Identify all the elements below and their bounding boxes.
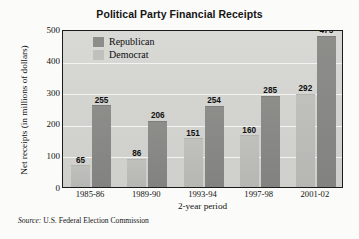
legend-label-democrat: Democrat	[109, 50, 148, 60]
y-tick-label: 0	[36, 184, 60, 193]
bar-value-label: 255	[95, 97, 109, 105]
bar-republican-1997-98: 285	[261, 96, 280, 187]
legend-item-republican: Republican	[93, 36, 155, 48]
y-tick-label: 100	[36, 152, 60, 161]
y-tick-label: 300	[36, 89, 60, 98]
y-tick-label: 200	[36, 120, 60, 129]
bar-value-label: 285	[263, 87, 277, 95]
bar-democrat-1993-94: 151	[184, 138, 203, 187]
source-note: Source: U.S. Federal Election Commission	[18, 216, 149, 225]
bar-value-label: 254	[207, 97, 221, 105]
bar-value-label: 151	[186, 130, 200, 138]
bar-democrat-1989-90: 86	[127, 159, 146, 187]
bar-democrat-1985-86: 65	[71, 165, 90, 187]
y-tick-label: 400	[36, 57, 60, 66]
bar-value-label: 475	[320, 30, 334, 35]
y-axis-tick-labels: 5004003002001000	[30, 0, 60, 239]
y-axis-title: Net receipts (in millions of dollars)	[19, 30, 29, 190]
chart-legend: Republican Democrat	[93, 36, 155, 61]
bar-value-label: 160	[242, 127, 256, 135]
x-tick-label: 1985-86	[76, 189, 105, 199]
x-tick-label: 1997-98	[244, 189, 273, 199]
x-tick-label: 1989-90	[132, 189, 161, 199]
legend-item-democrat: Democrat	[93, 49, 155, 61]
x-axis-title: 2-year period	[62, 201, 343, 211]
legend-swatch-democrat	[93, 50, 104, 60]
x-tick-label: 1993-94	[188, 189, 217, 199]
source-text: U.S. Federal Election Commission	[43, 216, 149, 225]
source-label: Source:	[18, 216, 41, 225]
legend-label-republican: Republican	[109, 37, 155, 47]
bar-republican-1989-90: 206	[148, 121, 167, 187]
legend-swatch-republican	[93, 37, 104, 47]
x-tick-label: 2001-02	[301, 189, 330, 199]
bar-value-label: 206	[151, 112, 165, 120]
bar-republican-1993-94: 254	[205, 106, 224, 187]
bar-value-label: 65	[76, 157, 85, 165]
bar-republican-2001-02: 475	[317, 36, 336, 187]
bar-democrat-1997-98: 160	[240, 135, 259, 187]
y-tick-label: 500	[36, 26, 60, 35]
bar-value-label: 86	[132, 150, 141, 158]
bar-democrat-2001-02: 292	[296, 94, 315, 187]
bar-republican-1985-86: 255	[92, 105, 111, 187]
bar-value-label: 292	[299, 85, 313, 93]
chart-figure: Political Party Financial Receipts Net r…	[0, 0, 359, 239]
plot-area: Republican Democrat 65255862061512541602…	[62, 30, 343, 188]
